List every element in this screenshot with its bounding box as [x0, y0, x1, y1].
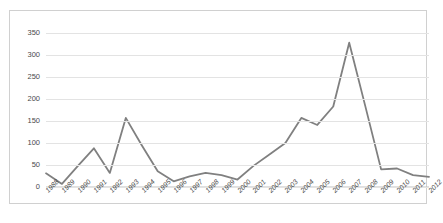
- line-chart-svg: [46, 33, 429, 187]
- y-axis-tick-label: 250: [10, 73, 40, 81]
- chart-frame: 050100150200250300350 198819891990199119…: [9, 10, 427, 204]
- y-axis-tick-label: 0: [10, 183, 40, 191]
- y-axis: 050100150200250300350: [10, 33, 40, 187]
- y-axis-tick-label: 50: [10, 161, 40, 169]
- plot-area: [46, 33, 429, 187]
- data-series-line: [46, 43, 429, 184]
- gridline: [46, 55, 429, 56]
- gridline: [46, 121, 429, 122]
- gridline: [46, 165, 429, 166]
- x-axis: 1988198919901991199219931994199519961997…: [46, 189, 429, 223]
- x-axis-tick-label: 2012: [427, 178, 443, 194]
- y-axis-tick-label: 150: [10, 117, 40, 125]
- y-axis-tick-label: 100: [10, 139, 40, 147]
- y-axis-tick-label: 300: [10, 51, 40, 59]
- y-axis-tick-label: 200: [10, 95, 40, 103]
- y-axis-tick-label: 350: [10, 29, 40, 37]
- gridline: [46, 77, 429, 78]
- gridline: [46, 99, 429, 100]
- gridline: [46, 143, 429, 144]
- gridline: [46, 33, 429, 34]
